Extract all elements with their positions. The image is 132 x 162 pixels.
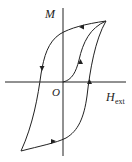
origin-label: O: [52, 86, 60, 98]
arrow-left-down-icon: [40, 66, 45, 71]
x-axis-label-subscript: ext: [115, 97, 126, 106]
initial-magnetization-curve: [63, 21, 106, 82]
hysteresis-diagram: M O H ext: [0, 0, 132, 162]
y-axis-label: M: [44, 7, 56, 21]
